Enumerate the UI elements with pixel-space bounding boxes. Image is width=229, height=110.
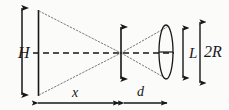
ray-upper-left [39,11,121,53]
ray-lower-left [39,53,121,95]
lens-ellipse [159,25,173,79]
label-aperture: 2R [204,44,222,60]
label-object-distance: x [72,86,78,100]
optics-ray-diagram: H L 2R x d [0,0,229,110]
label-image-distance: d [137,85,144,99]
label-object-height: H [18,45,30,61]
label-lens-height: L [189,46,197,61]
